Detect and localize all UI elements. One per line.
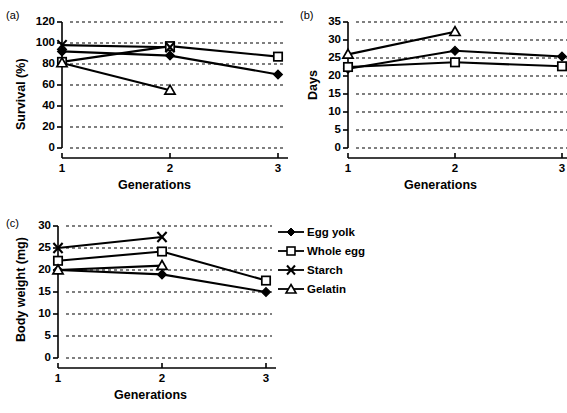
data-point-egg-yolk — [558, 52, 567, 61]
data-point-whole-egg — [274, 52, 282, 60]
plot-area-a — [0, 0, 290, 200]
x-axis-label-c: Generations — [58, 388, 243, 402]
x-tick-label: 2 — [440, 163, 470, 175]
data-point-whole-egg — [262, 276, 270, 284]
chart-panel-body-weight: (c) Body weight (mg) 051015202530 123 Ge… — [0, 200, 280, 413]
data-point-egg-yolk — [166, 51, 175, 60]
plot-area-b — [290, 0, 567, 200]
x-tick-label: 1 — [43, 373, 73, 385]
chart-legend: Egg yolk Whole egg Starch Gelatin — [278, 222, 418, 298]
x-tick-label: 1 — [47, 163, 77, 175]
data-point-whole-egg — [344, 63, 352, 71]
data-point-gelatin — [450, 27, 460, 36]
legend-label-whole-egg: Whole egg — [307, 245, 365, 257]
legend-entry-starch: Starch — [278, 260, 418, 279]
data-point-whole-egg — [451, 58, 459, 66]
x-tick-label: 3 — [263, 163, 293, 175]
series-line-gelatin — [62, 63, 170, 90]
legend-label-gelatin: Gelatin — [307, 283, 346, 295]
x-tick-label: 1 — [333, 163, 363, 175]
open-square-icon — [278, 244, 304, 258]
chart-panel-survival: (a) Survival (%) 020406080100120 123 Gen… — [0, 0, 290, 200]
data-point-whole-egg — [158, 247, 166, 255]
x-tick-label: 2 — [155, 163, 185, 175]
data-point-egg-yolk — [451, 46, 460, 55]
x-tick-label: 3 — [547, 163, 567, 175]
legend-label-egg-yolk: Egg yolk — [307, 226, 355, 238]
x-tick-label: 2 — [147, 373, 177, 385]
x-axis-label-a: Generations — [62, 178, 247, 192]
x-tick-label: 3 — [251, 373, 281, 385]
series-line-starch — [62, 45, 170, 47]
x-axis-label-b: Generations — [348, 178, 533, 192]
legend-label-starch: Starch — [307, 264, 343, 276]
legend-entry-gelatin: Gelatin — [278, 279, 418, 298]
data-point-whole-egg — [558, 62, 566, 70]
open-triangle-icon — [278, 282, 304, 296]
legend-entry-whole-egg: Whole egg — [278, 241, 418, 260]
series-line-gelatin — [348, 32, 455, 55]
plot-area-c — [0, 200, 280, 413]
series-line-gelatin — [58, 266, 162, 270]
legend-entry-egg-yolk: Egg yolk — [278, 222, 418, 241]
chart-panel-days: (b) Days 05101520253035 123 Generations — [290, 0, 567, 200]
data-point-egg-yolk — [262, 288, 271, 297]
data-point-egg-yolk — [158, 270, 167, 279]
cross-x-icon — [278, 263, 304, 277]
data-point-egg-yolk — [274, 70, 283, 79]
filled-diamond-icon — [278, 225, 304, 239]
series-line-starch — [58, 237, 162, 248]
